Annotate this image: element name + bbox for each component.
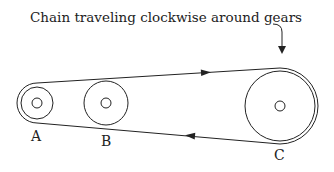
gear-b-label: B: [101, 133, 111, 149]
gear-c-label: C: [274, 147, 285, 163]
gear-b-hub: [101, 98, 111, 108]
chain-direction-arrow-left-icon: [185, 132, 196, 139]
gear-a-label: A: [30, 128, 42, 144]
gear-a-hub: [32, 98, 42, 108]
gear-a: [21, 87, 53, 119]
chain-arc-c: [280, 68, 318, 144]
gear-c-hub: [275, 101, 285, 111]
chain-direction-arrow-right-icon: [201, 69, 211, 76]
chain-arc-a: [17, 83, 37, 123]
gear-b: [84, 81, 128, 125]
caption-pointer-arrow: [273, 24, 282, 48]
caption-text: Chain traveling clockwise around gears: [30, 9, 302, 25]
chain-gear-diagram: Chain traveling clockwise around gears: [0, 0, 334, 172]
arrowhead-icon: [278, 46, 286, 54]
chain-bottom-segment: [37, 123, 280, 144]
diagram-canvas: Chain traveling clockwise around gears: [0, 0, 334, 172]
chain-top-segment: [37, 68, 280, 83]
chain: [17, 68, 318, 144]
gear-c: [245, 71, 315, 141]
